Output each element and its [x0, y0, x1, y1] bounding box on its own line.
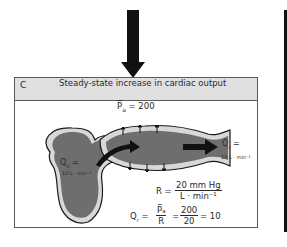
resistance-lhs: R =: [156, 186, 172, 196]
resistance-denominator: L · min⁻¹: [175, 191, 222, 201]
heart-output-label: Qh =: [60, 158, 79, 169]
heart-output-value: 10 L · min⁻¹: [62, 170, 92, 176]
circulation-diagram: [0, 0, 287, 247]
flow-eq2: =: [172, 211, 179, 221]
flow-result: = 10: [200, 211, 221, 221]
resistance-numerator: 20 mm Hg: [175, 180, 222, 191]
runoff-label: Qr =: [222, 139, 240, 150]
flow-fraction-2: 200 20: [180, 205, 198, 226]
resistance-fraction: 20 mm Hg L · min⁻¹: [175, 180, 222, 201]
flow-fraction-1: P̅ₐ R: [156, 205, 166, 226]
mean-arterial-pressure-label: Pa = 200: [117, 101, 155, 113]
runoff-value: 10 L · min⁻¹: [221, 154, 251, 160]
flow-lhs: Qr =: [130, 211, 149, 223]
